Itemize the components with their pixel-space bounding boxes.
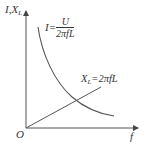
reactance-formula-rhs: =2πfL <box>91 73 117 84</box>
current-formula-denominator: 2πfL <box>56 28 74 39</box>
y-axis-label-sub: L <box>18 9 22 17</box>
origin-label: O <box>16 129 24 140</box>
current-formula-fraction: U2πfL <box>56 16 74 39</box>
current-formula: I=U2πfL <box>45 16 74 39</box>
y-axis-label: I,XL <box>5 4 22 17</box>
current-formula-numerator: U <box>56 16 74 28</box>
current-curve <box>38 27 114 116</box>
reactance-formula: XL=2πfL <box>81 74 118 86</box>
x-axis-label: f <box>130 131 133 142</box>
y-axis-label-main: I,X <box>5 3 18 15</box>
current-formula-lhs: I= <box>45 21 56 33</box>
reactance-line <box>26 87 101 128</box>
current-reactance-frequency-diagram: I,XL I=U2πfL XL=2πfL O f <box>0 0 149 155</box>
